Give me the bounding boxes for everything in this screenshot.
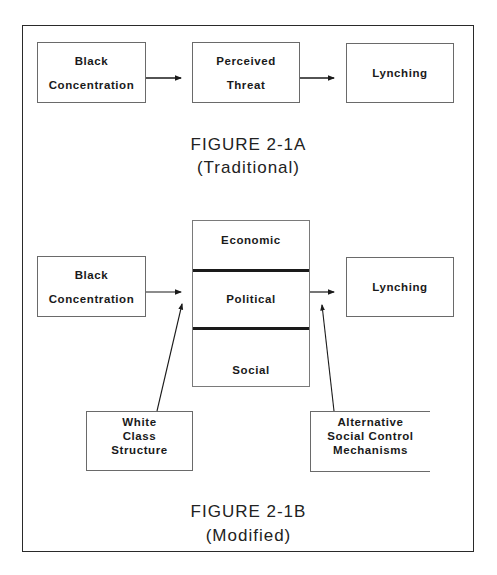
box-label: Black [75, 49, 109, 73]
box-label: Concentration [49, 73, 135, 97]
box-black-concentration-a: Black Concentration [37, 42, 146, 103]
divider [193, 269, 309, 272]
box-label: Perceived [216, 49, 276, 73]
box-label: Lynching [372, 61, 427, 85]
figure-a-title: FIGURE 2-1A [0, 133, 497, 156]
segment-economic: Economic [193, 234, 309, 246]
box-label: Threat [227, 73, 266, 97]
box-label: Concentration [49, 287, 135, 311]
box-label: Black [75, 263, 109, 287]
box-lynching-b: Lynching [346, 257, 454, 317]
box-label: Lynching [372, 275, 427, 299]
threat-dimensions-stack: Economic Political Social [192, 220, 310, 387]
segment-social: Social [193, 364, 309, 376]
box-black-concentration-b: Black Concentration [37, 256, 146, 317]
figure-b-subtitle: (Modified) [0, 524, 497, 547]
box-label: Mechanisms [333, 443, 408, 457]
box-label: White [122, 415, 156, 429]
figure-a-subtitle: (Traditional) [0, 156, 497, 179]
segment-political: Political [193, 293, 309, 305]
box-label: Class [123, 429, 157, 443]
box-alternative-social-control: Alternative Social Control Mechanisms [310, 411, 430, 472]
box-label: Social Control [327, 429, 413, 443]
box-perceived-threat: Perceived Threat [192, 42, 300, 103]
divider [193, 327, 309, 330]
figure-b-title: FIGURE 2-1B [0, 500, 497, 523]
box-label: Structure [111, 443, 168, 457]
box-label: Alternative [337, 415, 403, 429]
box-lynching-a: Lynching [346, 43, 454, 103]
box-white-class-structure: White Class Structure [86, 411, 193, 471]
